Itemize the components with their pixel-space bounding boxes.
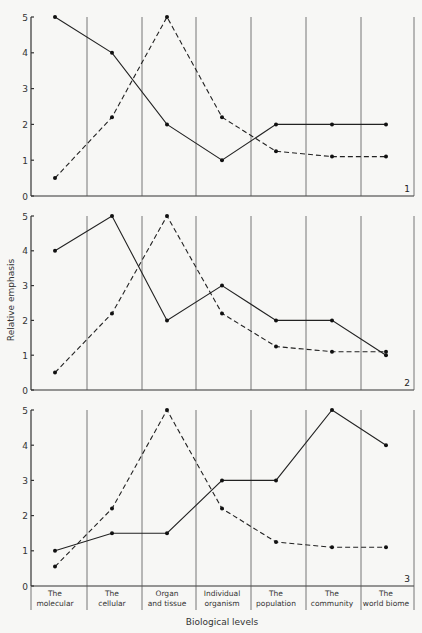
y-tick-label: 2 bbox=[22, 120, 28, 130]
y-tick-label: 3 bbox=[22, 84, 28, 94]
data-point bbox=[53, 371, 57, 375]
data-point bbox=[274, 122, 278, 126]
y-tick-label: 5 bbox=[22, 13, 28, 23]
data-point bbox=[274, 478, 278, 482]
x-category-label: and tissue bbox=[148, 599, 187, 608]
x-category-label: The bbox=[378, 589, 393, 598]
x-category-label: The bbox=[47, 589, 62, 598]
y-tick-label: 0 bbox=[22, 192, 28, 202]
data-point bbox=[110, 531, 114, 535]
data-point bbox=[384, 443, 388, 447]
data-point bbox=[274, 318, 278, 322]
data-point bbox=[165, 122, 169, 126]
y-tick-label: 1 bbox=[22, 546, 28, 556]
panel-2: 0123452 bbox=[22, 212, 414, 396]
panel-number: 2 bbox=[404, 378, 410, 388]
x-category-label: community bbox=[311, 599, 354, 608]
y-tick-label: 4 bbox=[22, 48, 28, 58]
data-point bbox=[110, 214, 114, 218]
data-point bbox=[53, 565, 57, 569]
x-category-label: population bbox=[256, 599, 296, 608]
y-tick-label: 0 bbox=[22, 386, 28, 396]
data-point bbox=[330, 155, 334, 159]
data-point bbox=[274, 345, 278, 349]
y-tick-label: 4 bbox=[22, 246, 28, 256]
data-point bbox=[384, 545, 388, 549]
data-point bbox=[330, 545, 334, 549]
x-category-label: cellular bbox=[98, 599, 126, 608]
data-point bbox=[220, 115, 224, 119]
x-category-labels: ThemolecularThecellularOrganand tissueIn… bbox=[31, 586, 414, 610]
y-tick-label: 0 bbox=[22, 582, 28, 592]
data-point bbox=[53, 15, 57, 19]
data-point bbox=[274, 540, 278, 544]
y-tick-label: 2 bbox=[22, 511, 28, 521]
x-category-label: The bbox=[104, 589, 119, 598]
x-category-label: world biome bbox=[363, 599, 410, 608]
x-category-label: Individual bbox=[204, 589, 241, 598]
biological-levels-chart: 012345101234520123453ThemolecularThecell… bbox=[0, 0, 422, 633]
x-category-label: molecular bbox=[36, 599, 74, 608]
x-category-label: The bbox=[268, 589, 283, 598]
series-line-dashed bbox=[55, 410, 386, 567]
series-line-dashed bbox=[55, 216, 386, 373]
data-point bbox=[110, 507, 114, 511]
data-point bbox=[53, 176, 57, 180]
data-point bbox=[165, 15, 169, 19]
data-point bbox=[110, 311, 114, 315]
data-point bbox=[384, 353, 388, 357]
x-category-label: The bbox=[324, 589, 339, 598]
panel-number: 1 bbox=[404, 184, 410, 194]
y-tick-label: 5 bbox=[22, 212, 28, 222]
y-tick-label: 3 bbox=[22, 476, 28, 486]
data-point bbox=[274, 149, 278, 153]
data-point bbox=[330, 350, 334, 354]
data-point bbox=[165, 318, 169, 322]
x-axis-label: Biological levels bbox=[186, 617, 259, 627]
panel-1: 0123451 bbox=[22, 13, 414, 202]
x-category-label: Organ bbox=[156, 589, 179, 598]
series-line-dashed bbox=[55, 17, 386, 178]
data-point bbox=[384, 350, 388, 354]
data-point bbox=[330, 408, 334, 412]
data-point bbox=[165, 408, 169, 412]
y-tick-label: 3 bbox=[22, 281, 28, 291]
y-axis-label: Relative emphasis bbox=[6, 259, 16, 342]
data-point bbox=[53, 549, 57, 553]
data-point bbox=[110, 51, 114, 55]
y-tick-label: 1 bbox=[22, 156, 28, 166]
data-point bbox=[165, 531, 169, 535]
series-line-solid bbox=[55, 17, 386, 160]
data-point bbox=[165, 214, 169, 218]
y-tick-label: 1 bbox=[22, 351, 28, 361]
data-point bbox=[220, 284, 224, 288]
panel-3: 0123453 bbox=[22, 406, 414, 592]
data-point bbox=[384, 122, 388, 126]
data-point bbox=[220, 507, 224, 511]
data-point bbox=[330, 122, 334, 126]
data-point bbox=[220, 158, 224, 162]
y-tick-label: 4 bbox=[22, 441, 28, 451]
y-tick-label: 2 bbox=[22, 316, 28, 326]
x-category-label: organism bbox=[205, 599, 240, 608]
panel-number: 3 bbox=[404, 574, 410, 584]
data-point bbox=[53, 249, 57, 253]
y-tick-label: 5 bbox=[22, 406, 28, 416]
data-point bbox=[384, 155, 388, 159]
data-point bbox=[220, 478, 224, 482]
data-point bbox=[220, 311, 224, 315]
data-point bbox=[110, 115, 114, 119]
data-point bbox=[330, 318, 334, 322]
